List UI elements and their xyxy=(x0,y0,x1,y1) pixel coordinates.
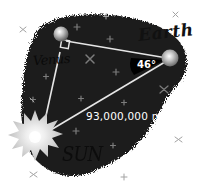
diagram-stage: Earth Venus SUN 46° 93,000,000 mi xyxy=(0,0,203,190)
angle-label: 46° xyxy=(137,59,156,70)
venus-planet xyxy=(54,27,69,42)
earth-planet xyxy=(162,50,179,67)
distance-label: 93,000,000 mi xyxy=(86,110,165,122)
venus-label: Venus xyxy=(33,51,71,69)
sun-label: SUN xyxy=(62,142,102,166)
